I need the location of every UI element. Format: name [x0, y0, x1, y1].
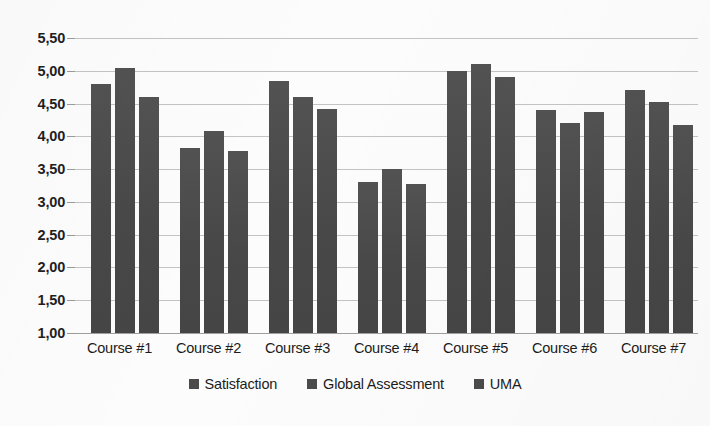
y-tick-mark [67, 71, 75, 72]
bar [228, 151, 248, 333]
bar [673, 125, 693, 333]
legend-swatch-icon [189, 379, 199, 389]
y-tick-mark [67, 300, 75, 301]
x-axis-category-label: Course #5 [431, 340, 520, 356]
y-tick-mark [67, 169, 75, 170]
legend-item-label: UMA [490, 376, 522, 392]
x-axis-category-label: Course #7 [609, 340, 698, 356]
legend-item[interactable]: Global Assessment [307, 376, 444, 392]
y-axis-tick-label: 2,00 [11, 259, 65, 275]
bar [317, 109, 337, 333]
bar-group [536, 38, 604, 333]
y-axis-tick-label: 1,00 [11, 325, 65, 341]
y-axis-tick-label: 5,00 [11, 63, 65, 79]
bar [560, 123, 580, 333]
bar [382, 169, 402, 333]
y-tick-mark [67, 333, 75, 334]
plot-area [75, 38, 698, 333]
y-tick-mark [67, 104, 75, 105]
bar-group [625, 38, 693, 333]
y-axis-tick-label: 3,50 [11, 161, 65, 177]
bar [269, 81, 289, 333]
legend-item[interactable]: UMA [474, 376, 522, 392]
bar [447, 71, 467, 333]
bar [495, 77, 515, 333]
legend-item-label: Global Assessment [323, 376, 444, 392]
bar [471, 64, 491, 333]
bar [584, 112, 604, 333]
legend-swatch-icon [474, 379, 484, 389]
bar [115, 68, 135, 334]
bar-group [91, 38, 159, 333]
y-axis-tick-label: 3,00 [11, 194, 65, 210]
bar-group [269, 38, 337, 333]
bar [180, 148, 200, 333]
x-axis-category-label: Course #1 [75, 340, 164, 356]
bar-group [447, 38, 515, 333]
x-axis-category-label: Course #2 [164, 340, 253, 356]
bar [293, 97, 313, 333]
y-tick-mark [67, 136, 75, 137]
bar [91, 84, 111, 333]
gridline [75, 333, 698, 334]
bar [204, 131, 224, 333]
legend-item-label: Satisfaction [205, 376, 278, 392]
bar [625, 90, 645, 333]
x-axis-category-label: Course #3 [253, 340, 342, 356]
x-axis-category-label: Course #4 [342, 340, 431, 356]
y-tick-mark [67, 202, 75, 203]
y-axis-tick-label: 4,00 [11, 128, 65, 144]
bar-group [180, 38, 248, 333]
y-axis-tick-label: 1,50 [11, 292, 65, 308]
bar [358, 182, 378, 333]
legend-item[interactable]: Satisfaction [189, 376, 278, 392]
bar [649, 102, 669, 333]
bar-group [358, 38, 426, 333]
y-tick-mark [67, 235, 75, 236]
bar-chart-figure: 5,505,004,504,003,503,002,502,001,501,00… [0, 0, 710, 426]
bar [139, 97, 159, 333]
y-tick-mark [67, 38, 75, 39]
legend-swatch-icon [307, 379, 317, 389]
y-axis-tick-label: 5,50 [11, 30, 65, 46]
bar [536, 110, 556, 333]
x-axis-category-label: Course #6 [520, 340, 609, 356]
bar [406, 184, 426, 333]
chart-legend: SatisfactionGlobal AssessmentUMA [0, 376, 710, 392]
y-axis-tick-label: 4,50 [11, 96, 65, 112]
y-axis-tick-label: 2,50 [11, 227, 65, 243]
y-tick-mark [67, 267, 75, 268]
